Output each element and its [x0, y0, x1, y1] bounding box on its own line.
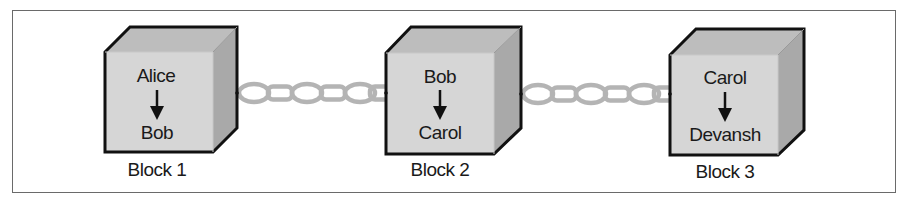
- block-2-sender: Bob: [424, 66, 456, 87]
- chain-icon: [239, 84, 394, 102]
- block-3-recipient: Devansh: [689, 124, 761, 145]
- block-3-label: Block 3: [696, 161, 755, 182]
- chain-icon: [523, 85, 678, 103]
- block-3-sender: Carol: [704, 67, 747, 88]
- block-2-recipient: Carol: [419, 122, 462, 143]
- block-1-sender: Alice: [137, 65, 176, 86]
- block-1-label: Block 1: [128, 159, 187, 180]
- block-1-recipient: Bob: [141, 122, 173, 143]
- block-2-label: Block 2: [411, 159, 470, 180]
- blockchain-diagram: Alice Bob Block 1 Bob Carol Block 2 Caro…: [0, 0, 906, 205]
